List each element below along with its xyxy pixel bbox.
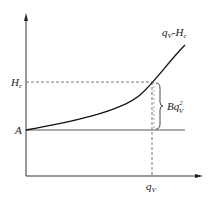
qv-hc-curve	[26, 45, 185, 130]
y-axis-arrow	[24, 13, 28, 21]
pump-curve-diagram: qV-Hc Hc A qV Bq2V	[0, 0, 218, 202]
bq-label: Bq2V	[167, 99, 184, 115]
curve-label: qV-Hc	[162, 26, 187, 40]
hc-label: Hc	[10, 76, 23, 90]
bq-brace	[156, 83, 163, 129]
a-label: A	[14, 124, 22, 136]
x-axis-arrow	[195, 174, 203, 178]
qv-label: qV	[146, 180, 157, 194]
